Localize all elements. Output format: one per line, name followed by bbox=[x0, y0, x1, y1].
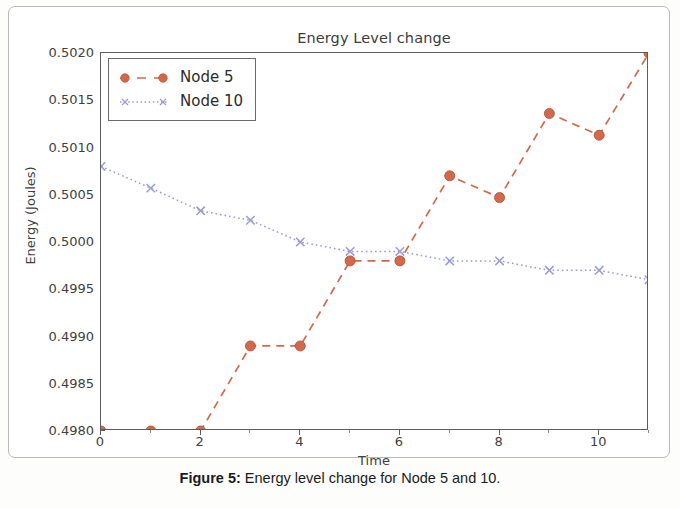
x-tick-minor-9 bbox=[548, 430, 549, 433]
y-tick-label-4: 0.5000 bbox=[36, 234, 94, 249]
x-tick-mark-3 bbox=[399, 430, 400, 435]
data-point-node-10-10 bbox=[595, 266, 603, 274]
data-point-node-5-4 bbox=[295, 341, 305, 351]
data-point-node-5-5 bbox=[345, 256, 355, 266]
data-point-node-5-6 bbox=[395, 256, 405, 266]
y-axis-label: Energy (Joules) bbox=[23, 136, 38, 296]
x-tick-mark-5 bbox=[598, 430, 599, 435]
x-tick-label-1: 2 bbox=[195, 434, 203, 449]
data-point-node-5-7 bbox=[445, 171, 455, 181]
legend-item-node-5: Node 5 bbox=[118, 65, 243, 89]
x-tick-minor-3 bbox=[249, 430, 250, 433]
y-tick-label-6: 0.5010 bbox=[36, 139, 94, 154]
figure-page: Energy Level change 0.49800.49850.49900.… bbox=[0, 0, 680, 509]
x-tick-label-2: 4 bbox=[295, 434, 303, 449]
chart-legend: Node 5 Node 10 bbox=[108, 58, 256, 121]
y-tick-label-3: 0.4995 bbox=[36, 281, 94, 296]
y-axis-tick-labels: 0.49800.49850.49900.49950.50000.50050.50… bbox=[30, 0, 94, 460]
data-point-node-5-11 bbox=[644, 53, 647, 58]
figure-caption: Figure 5: Energy level change for Node 5… bbox=[0, 470, 680, 486]
legend-item-node-10: Node 10 bbox=[118, 89, 243, 113]
x-tick-minor-1 bbox=[150, 430, 151, 433]
data-point-node-5-3 bbox=[245, 341, 255, 351]
chart-title: Energy Level change bbox=[100, 30, 648, 46]
x-tick-minor-7 bbox=[449, 430, 450, 433]
x-tick-mark-2 bbox=[299, 430, 300, 435]
data-point-node-10-0 bbox=[101, 162, 105, 170]
figure-caption-label: Figure 5: bbox=[180, 470, 241, 486]
legend-label-node-5: Node 5 bbox=[180, 68, 233, 86]
data-point-node-10-8 bbox=[495, 257, 503, 265]
x-tick-mark-1 bbox=[200, 430, 201, 435]
data-point-node-5-9 bbox=[544, 108, 554, 118]
data-point-node-5-0 bbox=[101, 426, 106, 429]
x-tick-label-5: 10 bbox=[590, 434, 607, 449]
x-tick-minor-5 bbox=[349, 430, 350, 433]
y-tick-label-8: 0.5020 bbox=[36, 45, 94, 60]
data-point-node-5-8 bbox=[495, 193, 505, 203]
y-tick-label-7: 0.5015 bbox=[36, 92, 94, 107]
data-point-node-10-1 bbox=[147, 184, 155, 192]
y-tick-label-1: 0.4985 bbox=[36, 375, 94, 390]
x-tick-label-4: 8 bbox=[494, 434, 502, 449]
legend-label-node-10: Node 10 bbox=[180, 92, 243, 110]
x-tick-mark-0 bbox=[100, 430, 101, 435]
series-line-node-10 bbox=[101, 166, 647, 279]
y-tick-label-2: 0.4990 bbox=[36, 328, 94, 343]
legend-swatch-node-5 bbox=[118, 70, 170, 84]
x-tick-mark-4 bbox=[499, 430, 500, 435]
data-point-node-5-10 bbox=[594, 130, 604, 140]
energy-level-chart: Energy Level change 0.49800.49850.49900.… bbox=[0, 0, 680, 460]
x-tick-minor-11 bbox=[648, 430, 649, 433]
figure-caption-text: Energy level change for Node 5 and 10. bbox=[241, 470, 501, 486]
data-point-node-5-1 bbox=[146, 426, 156, 429]
data-point-node-10-9 bbox=[545, 266, 553, 274]
x-tick-label-0: 0 bbox=[96, 434, 104, 449]
y-tick-label-5: 0.5005 bbox=[36, 186, 94, 201]
legend-swatch-node-10 bbox=[118, 94, 170, 108]
x-tick-label-3: 6 bbox=[395, 434, 403, 449]
x-axis-label: Time bbox=[100, 453, 648, 468]
